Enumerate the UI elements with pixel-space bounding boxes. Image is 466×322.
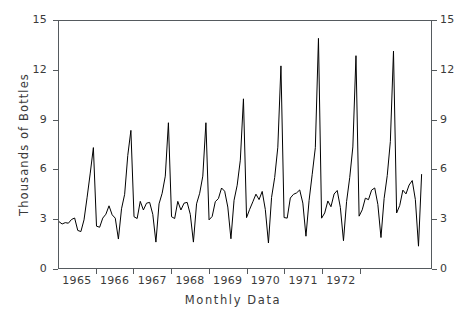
y-tick-label-right: 6: [440, 163, 447, 174]
x-tick-label: 1972: [326, 275, 355, 286]
x-axis-title: Monthly Data: [0, 295, 466, 307]
x-tick-label: 1966: [100, 275, 129, 286]
y-tick-label-left: 12: [32, 64, 47, 75]
y-tick-right: [432, 169, 437, 170]
series-line: [59, 21, 431, 268]
x-tick: [247, 269, 248, 274]
y-tick-left: [53, 70, 58, 71]
x-tick-label: 1968: [175, 275, 204, 286]
plot-area: [58, 20, 432, 269]
x-tick: [322, 269, 323, 274]
y-tick-label-left: 15: [32, 14, 47, 25]
chart-container: Thousands of Bottles Monthly Data 003366…: [0, 0, 466, 322]
y-tick-label-right: 0: [440, 263, 447, 274]
y-tick-label-left: 9: [40, 114, 47, 125]
y-tick-label-left: 6: [40, 163, 47, 174]
y-tick-left: [53, 20, 58, 21]
y-tick-right: [432, 20, 437, 21]
y-axis-title: Thousands of Bottles: [16, 20, 32, 269]
x-tick: [96, 269, 97, 274]
y-tick-left: [53, 169, 58, 170]
x-tick-label: 1965: [62, 275, 91, 286]
y-tick-left: [53, 269, 58, 270]
y-tick-right: [432, 219, 437, 220]
x-tick: [133, 269, 134, 274]
x-tick: [284, 269, 285, 274]
y-tick-label-left: 0: [40, 263, 47, 274]
y-tick-label-right: 15: [440, 14, 455, 25]
y-tick-right: [432, 70, 437, 71]
x-tick-label: 1970: [251, 275, 280, 286]
y-tick-left: [53, 120, 58, 121]
y-tick-label-left: 3: [40, 213, 47, 224]
x-tick-label: 1971: [288, 275, 317, 286]
x-tick-label: 1969: [213, 275, 242, 286]
y-tick-right: [432, 269, 437, 270]
y-tick-label-right: 12: [440, 64, 455, 75]
x-tick: [209, 269, 210, 274]
x-tick: [171, 269, 172, 274]
x-tick: [360, 269, 361, 274]
y-tick-label-right: 9: [440, 114, 447, 125]
y-tick-left: [53, 219, 58, 220]
y-tick-right: [432, 120, 437, 121]
y-tick-label-right: 3: [440, 213, 447, 224]
x-tick-label: 1967: [138, 275, 167, 286]
